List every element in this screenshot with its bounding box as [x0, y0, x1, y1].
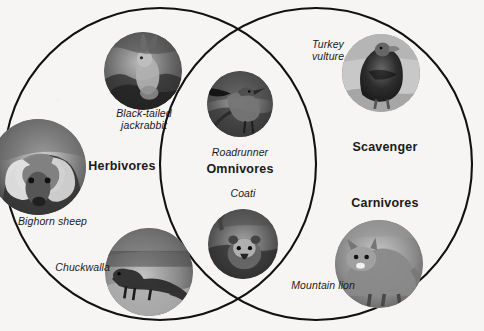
photo-mountain-lion [335, 220, 423, 308]
label-omnivores: Omnivores [197, 162, 283, 176]
venn-diagram-canvas: Black-tailed jackrabbit Bighorn sheep Ch… [0, 0, 484, 331]
photo-black-tailed-jackrabbit [104, 32, 182, 110]
caption-bighorn-sheep: Bighorn sheep [18, 216, 110, 228]
caption-roadrunner: Roadrunner [198, 147, 282, 159]
caption-coati: Coati [213, 188, 273, 200]
label-scavenger: Scavenger [340, 140, 430, 154]
caption-chuckwalla: Chuckwalla [40, 262, 110, 274]
caption-black-tailed-jackrabbit: Black-tailed jackrabbit [104, 108, 184, 132]
caption-turkey-vulture: Turkey vulture [303, 39, 353, 63]
caption-mountain-lion: Mountain lion [275, 280, 355, 292]
photo-roadrunner [207, 71, 273, 137]
photo-turkey-vulture [342, 34, 420, 112]
photo-coati [208, 209, 278, 279]
photo-chuckwalla [105, 228, 193, 316]
label-herbivores: Herbivores [74, 159, 170, 173]
label-carnivores: Carnivores [337, 196, 433, 210]
